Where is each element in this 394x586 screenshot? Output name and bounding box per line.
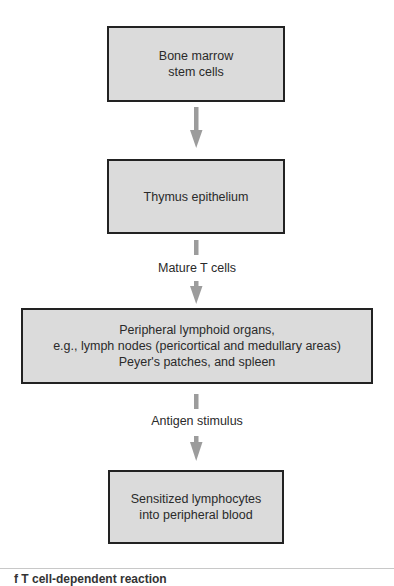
- node-text-line: Peyer's patches, and spleen: [119, 354, 276, 370]
- caption-divider: [0, 568, 394, 569]
- node-bone-marrow-stem-cells: Bone marrow stem cells: [107, 26, 285, 102]
- edge-label-antigen-stimulus: Antigen stimulus: [0, 414, 394, 428]
- arrow-shaft: [194, 281, 199, 287]
- arrow-shaft: [194, 240, 199, 255]
- arrow-shaft: [194, 436, 199, 443]
- node-text-line: Sensitized lymphocytes: [131, 491, 262, 507]
- arrow-shaft: [194, 107, 199, 131]
- node-sensitized-lymphocytes: Sensitized lymphocytes into peripheral b…: [108, 470, 284, 544]
- arrowhead: [190, 442, 203, 461]
- arrowhead: [190, 286, 203, 304]
- node-thymus-epithelium: Thymus epithelium: [107, 159, 285, 234]
- figure-caption: f T cell-dependent reaction: [14, 572, 167, 586]
- node-text-line: Bone marrow: [159, 48, 233, 64]
- arrow-shaft: [194, 394, 199, 409]
- edge-label-mature-t-cells: Mature T cells: [0, 261, 394, 275]
- node-text-line: Peripheral lymphoid organs,: [119, 322, 275, 338]
- node-peripheral-lymphoid-organs: Peripheral lymphoid organs, e.g., lymph …: [21, 308, 373, 384]
- node-text-line: Thymus epithelium: [144, 189, 249, 205]
- arrow-bone-marrow-to-thymus: [190, 107, 203, 148]
- node-text-line: into peripheral blood: [139, 507, 252, 523]
- node-text-line: e.g., lymph nodes (pericortical and medu…: [53, 338, 341, 354]
- arrowhead: [190, 130, 203, 148]
- node-text-line: stem cells: [168, 64, 224, 80]
